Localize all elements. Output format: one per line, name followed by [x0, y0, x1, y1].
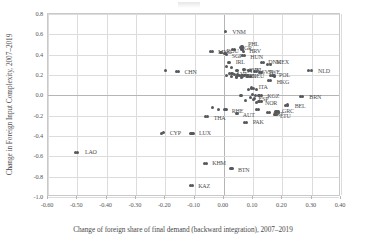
y-tick-label: 0.0 [21, 91, 43, 98]
gridline-vertical [136, 14, 137, 195]
x-tick-mark [223, 196, 224, 199]
x-tick-label: -0.40 [99, 201, 112, 208]
data-point-label: DEU [252, 73, 264, 79]
x-tick-label: -0.60 [41, 201, 54, 208]
gridline-horizontal [48, 156, 339, 157]
plot-area: VNMBGRPHLHRVMNGROUSGPHUNIRLDNKMEXCHNESTS… [47, 13, 340, 196]
data-point [211, 106, 214, 109]
data-point-label: KGZ [267, 93, 279, 99]
y-axis-title: Change in Foreign Input Complexity, 2007… [5, 10, 14, 200]
data-point [240, 94, 243, 97]
data-point [243, 54, 246, 57]
x-tick-label: -0.50 [70, 201, 83, 208]
data-point [211, 50, 214, 53]
data-point [249, 69, 252, 72]
x-tick-mark [76, 196, 77, 199]
data-point [230, 66, 233, 69]
data-point [240, 45, 243, 48]
y-tick-label: 0.2 [21, 71, 43, 78]
data-point-label: CHN [184, 69, 196, 75]
data-point-label: AUT [243, 112, 255, 118]
data-point [246, 74, 249, 77]
data-point-label: POL [279, 72, 290, 78]
gridline-horizontal [48, 55, 339, 56]
data-point-label: KAZ [198, 183, 210, 189]
data-point [257, 108, 260, 111]
y-tick-label: -0.2 [21, 111, 43, 118]
data-point [225, 65, 228, 68]
x-tick-mark [194, 196, 195, 199]
x-tick-label: -0.30 [129, 201, 142, 208]
gridline-vertical [341, 14, 342, 195]
data-point [191, 184, 194, 187]
x-tick-label: 0.00 [217, 201, 228, 208]
x-tick-mark [340, 196, 341, 199]
x-tick-mark [311, 196, 312, 199]
data-point-label: PHL [248, 41, 259, 47]
x-tick-mark [164, 196, 165, 199]
data-point [191, 132, 194, 135]
gridline-vertical [312, 14, 313, 195]
data-point [225, 108, 228, 111]
data-point [240, 74, 243, 77]
data-point-label: VNM [232, 29, 246, 35]
data-point [268, 111, 271, 114]
data-point [164, 69, 167, 72]
cropped-title-artifact [178, 2, 200, 8]
x-tick-label: -0.10 [187, 201, 200, 208]
data-point-label: HUN [250, 54, 263, 60]
data-point [252, 87, 255, 90]
data-point [225, 74, 228, 77]
data-point [230, 72, 233, 75]
x-tick-label: -0.20 [158, 201, 171, 208]
gridline-vertical [195, 14, 196, 195]
gridline-vertical [165, 14, 166, 195]
data-point [271, 74, 274, 77]
data-point-label: KHM [212, 160, 226, 166]
y-tick-label: 0.8 [21, 10, 43, 17]
data-point [205, 162, 208, 165]
data-point [206, 115, 209, 118]
data-point [220, 51, 223, 54]
data-point-label: IRL [236, 59, 245, 65]
data-point-label: NOR [265, 100, 277, 106]
data-point [244, 99, 247, 102]
data-point-label: THA [214, 115, 226, 121]
gridline-vertical [107, 14, 108, 195]
x-axis-title: Change of foreign share of final demand … [0, 225, 366, 234]
data-point-label: HKG [277, 79, 290, 85]
x-tick-mark [135, 196, 136, 199]
x-tick-label: 0.20 [276, 201, 287, 208]
data-point-label: MEX [276, 59, 289, 65]
x-tick-mark [106, 196, 107, 199]
data-point [269, 63, 272, 66]
x-tick-label: 0.10 [247, 201, 258, 208]
x-axis-zero-line [48, 95, 339, 96]
data-point [286, 103, 289, 106]
gridline-horizontal [48, 14, 339, 15]
gridline-horizontal [48, 136, 339, 137]
data-point [245, 121, 248, 124]
data-point-label: NLD [318, 68, 330, 74]
data-point-label: LTU [280, 113, 291, 119]
data-point [228, 61, 231, 64]
data-point [301, 95, 304, 98]
y-tick-label: -0.6 [21, 152, 43, 159]
data-point [177, 70, 180, 73]
data-point-label: BRN [309, 94, 321, 100]
data-point-label: SGP [232, 53, 243, 59]
data-point-label: BEL [295, 103, 306, 109]
x-tick-mark [47, 196, 48, 199]
data-point [262, 61, 265, 64]
x-tick-mark [281, 196, 282, 199]
data-point [274, 113, 277, 116]
data-point-label: CYP [170, 130, 181, 136]
data-point [253, 97, 256, 100]
x-tick-label: 0.30 [305, 201, 316, 208]
data-point-label: LAO [85, 149, 97, 155]
data-point [224, 30, 227, 33]
y-tick-label: -0.4 [21, 132, 43, 139]
y-tick-label: -1.0 [21, 193, 43, 200]
data-point [230, 75, 233, 78]
data-point-label: BTN [238, 167, 250, 173]
